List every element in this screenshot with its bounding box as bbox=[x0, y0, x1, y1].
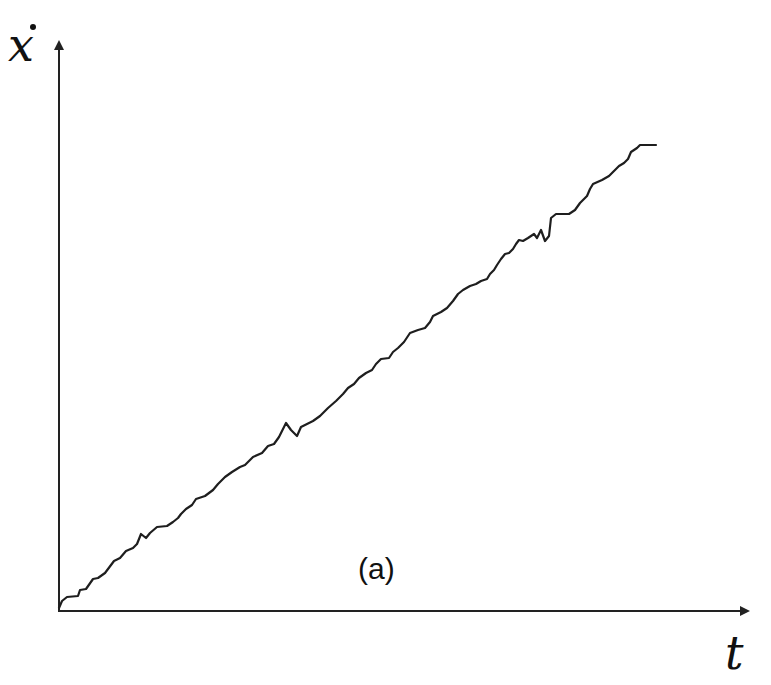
y-label-dot-icon bbox=[30, 24, 36, 30]
panel-label: (a) bbox=[358, 552, 395, 586]
data-series-line bbox=[59, 145, 656, 608]
x-axis-label: t bbox=[725, 630, 744, 676]
